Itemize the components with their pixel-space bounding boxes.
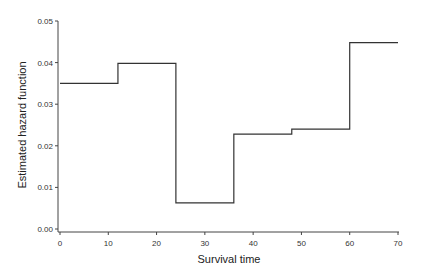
y-tick-label: 0.04	[37, 59, 53, 68]
x-tick-label: 50	[297, 239, 306, 248]
y-tick-label: 0.05	[37, 17, 53, 26]
plot-area	[60, 43, 398, 203]
y-tick-label: 0.02	[37, 142, 53, 151]
hazard-step-line	[60, 43, 398, 203]
x-tick-label: 0	[58, 239, 63, 248]
x-tick-label: 10	[104, 239, 113, 248]
y-tick-label: 0.03	[37, 100, 53, 109]
x-tick-label: 70	[394, 239, 403, 248]
hazard-chart: 0.000.010.020.030.040.05010203040506070 …	[0, 0, 421, 280]
x-tick-label: 40	[249, 239, 258, 248]
x-tick-label: 20	[152, 239, 161, 248]
x-axis-title: Survival time	[198, 253, 261, 265]
x-tick-label: 60	[345, 239, 354, 248]
x-tick-label: 30	[200, 239, 209, 248]
axes: 0.000.010.020.030.040.05010203040506070	[37, 17, 403, 248]
y-axis-title: Estimated hazard function	[16, 61, 28, 188]
y-tick-label: 0.01	[37, 183, 53, 192]
y-tick-label: 0.00	[37, 225, 53, 234]
